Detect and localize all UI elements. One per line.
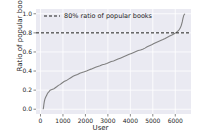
y-tick-label: 0.6	[8, 48, 32, 55]
x-axis-label: User	[0, 124, 201, 132]
y-tick-label: 0.8	[8, 29, 32, 36]
y-tick-label: 0.4	[8, 67, 32, 74]
y-tick-label: 0.2	[8, 86, 32, 93]
y-tick-label: 0.0	[8, 105, 32, 112]
legend-label: 80% ratio of popular books	[64, 12, 152, 20]
plot-area-group	[34, 9, 192, 117]
x-tick-label: 6000	[160, 117, 190, 124]
y-tick-label: 1.0	[8, 10, 32, 17]
chart-figure: Ratio of popular books User 0.00.20.40.6…	[0, 0, 201, 135]
